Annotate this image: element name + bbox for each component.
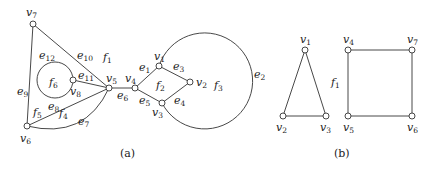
figure: v7 v6 v8 v5 v4 v1 v3 v2 e1 e2 e3 e4 e5 e… (0, 0, 432, 172)
edge-e12-loop (37, 62, 73, 98)
label-a-v7: v7 (26, 6, 37, 20)
label-e10: e10 (77, 49, 93, 63)
label-e6: e6 (117, 89, 129, 103)
label-e12: e12 (39, 49, 55, 63)
label-a-f3: f3 (213, 79, 223, 93)
label-e2: e2 (254, 68, 266, 82)
vertex-b-v1 (302, 47, 308, 53)
vertex-b-v4 (345, 47, 351, 53)
vertex-a-v6 (24, 123, 30, 129)
label-a-v5: v5 (106, 72, 117, 86)
label-a-f6: f6 (48, 76, 58, 90)
label-a-v1: v1 (154, 50, 165, 64)
vertex-a-v2 (187, 79, 193, 85)
label-b-v5: v5 (343, 121, 354, 135)
edge-b-v1-v3 (305, 50, 326, 116)
label-b-f1: f1 (330, 76, 340, 90)
label-e9: e9 (17, 85, 29, 99)
label-e11: e11 (78, 69, 94, 83)
label-e8: e8 (48, 100, 60, 114)
vertex-b-v5 (345, 113, 351, 119)
label-a-v4: v4 (125, 72, 136, 86)
caption-b: (b) (334, 147, 350, 160)
label-b-v7: v7 (407, 33, 418, 47)
label-a-f1: f1 (102, 51, 112, 65)
vertex-b-v6 (409, 113, 415, 119)
label-b-v6: v6 (407, 121, 418, 135)
label-e3: e3 (173, 60, 185, 74)
label-e1: e1 (139, 61, 150, 75)
vertex-a-v7 (30, 21, 36, 27)
label-b-v3: v3 (320, 121, 331, 135)
label-a-f5: f5 (32, 106, 42, 120)
vertex-b-v2 (280, 113, 286, 119)
label-a-v2: v2 (196, 76, 207, 90)
edge-b-v1-v2 (283, 50, 305, 116)
label-a-v6: v6 (20, 132, 31, 146)
label-b-v2: v2 (276, 121, 287, 135)
label-a-v8: v8 (70, 85, 81, 99)
label-a-f4: f4 (58, 107, 68, 121)
vertex-b-v3 (323, 113, 329, 119)
label-b-v4: v4 (343, 33, 354, 47)
vertex-a-v8 (70, 77, 76, 83)
label-e4: e4 (174, 94, 186, 108)
vertex-a-v5 (106, 85, 112, 91)
graph-b: v1 v2 v3 v4 v7 v5 v6 f1 (b) (276, 33, 418, 160)
graph-a: v7 v6 v8 v5 v4 v1 v3 v2 e1 e2 e3 e4 e5 e… (17, 6, 266, 160)
label-a-v3: v3 (152, 106, 163, 120)
vertex-b-v7 (409, 47, 415, 53)
caption-a: (a) (120, 147, 135, 160)
vertex-a-v3 (159, 100, 165, 106)
label-a-f2: f2 (155, 79, 165, 93)
edge-e8 (27, 88, 109, 126)
label-b-v1: v1 (300, 33, 311, 47)
